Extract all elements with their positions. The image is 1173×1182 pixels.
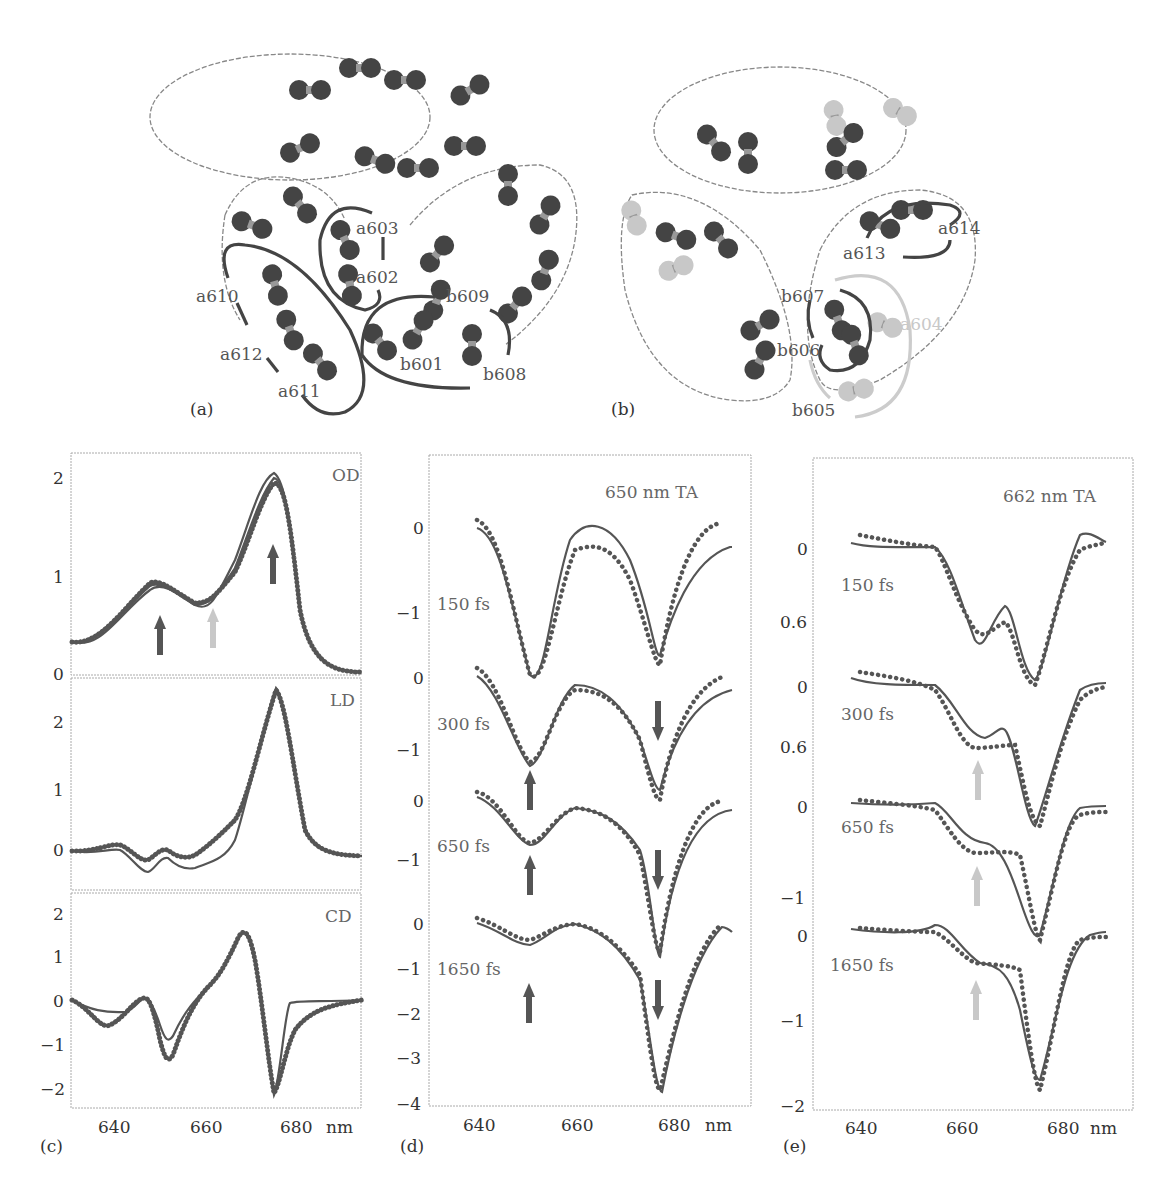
d-xaxis-unit: nm xyxy=(705,1115,732,1135)
d-ytick-1650-m3: −3 xyxy=(396,1048,421,1068)
d-ytick-1650-m2: −2 xyxy=(396,1004,421,1024)
cd-ytick-m1: −1 xyxy=(40,1035,65,1055)
e-title: 662 nm TA xyxy=(1003,486,1097,506)
c-xtick-640: 640 xyxy=(98,1117,130,1137)
d-label-150fs: 150 fs xyxy=(437,594,490,614)
e-ytick-150-06: 0.6 xyxy=(780,612,807,632)
d-650fs-arrow-down xyxy=(652,850,664,890)
od-ytick-0: 0 xyxy=(53,664,64,684)
d-label-1650fs: 1650 fs xyxy=(437,959,501,979)
e-label-300fs: 300 fs xyxy=(841,704,894,724)
d-300fs-arrow-up xyxy=(524,770,536,810)
od-arrow-650 xyxy=(154,615,166,655)
domain-ellipse-left-b xyxy=(621,192,792,400)
cd-ytick-2: 2 xyxy=(53,904,64,924)
d-ytick-1650-m4: −4 xyxy=(396,1094,421,1114)
e-xtick-640: 640 xyxy=(845,1118,877,1138)
label-b601: b601 xyxy=(400,354,443,374)
c-xtick-660: 660 xyxy=(190,1117,222,1137)
d-xtick-660: 660 xyxy=(561,1115,593,1135)
d-label-650fs: 650 fs xyxy=(437,836,490,856)
e-xtick-680: 680 xyxy=(1047,1118,1079,1138)
ld-ytick-2: 2 xyxy=(53,712,64,732)
d-ytick-1650-m1: −1 xyxy=(396,959,421,979)
d-ytick-150-m1: −1 xyxy=(396,603,421,623)
e-650fs-arrow-up xyxy=(971,866,983,906)
ld-frame xyxy=(71,678,361,890)
ld-title: LD xyxy=(330,690,355,710)
panel-label-b: (b) xyxy=(611,399,635,419)
d-title: 650 nm TA xyxy=(605,482,699,502)
panel-b-diagram: a613 a614 b607 a604 b606 b605 (b) xyxy=(611,67,981,420)
e-300fs-arrow-up xyxy=(972,760,984,800)
panel-label-e: (e) xyxy=(783,1136,806,1156)
e-label-150fs: 150 fs xyxy=(841,575,894,595)
d-1650fs-arrow-up xyxy=(523,983,535,1023)
d-150fs-experiment xyxy=(477,520,722,677)
e-1650fs-arrow-up xyxy=(970,980,982,1020)
label-b607: b607 xyxy=(781,286,824,306)
subplot-ld: LD 2 1 0 xyxy=(53,678,362,890)
d-ytick-650-0: 0 xyxy=(413,791,424,811)
label-a610: a610 xyxy=(196,286,239,306)
cd-ytick-0: 0 xyxy=(53,991,64,1011)
chlorophyll-pairs-b xyxy=(618,94,933,403)
panel-label-c: (c) xyxy=(40,1136,63,1156)
label-a602: a602 xyxy=(356,267,399,287)
e-ytick-1650-m2: −2 xyxy=(780,1096,805,1116)
e-ytick-300-0: 0 xyxy=(797,677,808,697)
label-a613: a613 xyxy=(843,243,886,263)
domain-ellipse-top-b xyxy=(654,67,906,193)
label-b605: b605 xyxy=(792,400,835,420)
label-b606: b606 xyxy=(777,340,820,360)
d-xtick-680: 680 xyxy=(658,1115,690,1135)
figure: a603 a602 a610 b609 a612 b601 b608 a611 … xyxy=(0,0,1173,1182)
d-650fs-fit xyxy=(477,797,732,957)
e-ytick-650-m1: −1 xyxy=(780,888,805,908)
od-ytick-2: 2 xyxy=(53,468,64,488)
label-b609: b609 xyxy=(446,286,489,306)
cd-ytick-1: 1 xyxy=(53,947,64,967)
od-arrow-675 xyxy=(267,544,279,584)
e-ytick-150-0: 0 xyxy=(797,539,808,559)
d-ytick-1650-0: 0 xyxy=(413,914,424,934)
d-650fs-arrow-up xyxy=(524,855,536,895)
od-arrow-662 xyxy=(207,608,219,648)
panel-label-a: (a) xyxy=(190,399,213,419)
e-ytick-650-0: 0 xyxy=(797,797,808,817)
e-xtick-660: 660 xyxy=(946,1118,978,1138)
e-150fs-fit xyxy=(851,534,1106,680)
label-a612: a612 xyxy=(220,344,263,364)
d-xtick-640: 640 xyxy=(463,1115,495,1135)
d-ytick-650-m1: −1 xyxy=(396,850,421,870)
d-300fs-arrow-down xyxy=(652,701,664,741)
e-ytick-1650-0: 0 xyxy=(797,926,808,946)
e-label-1650fs: 1650 fs xyxy=(830,955,894,975)
d-ytick-300-m1: −1 xyxy=(396,740,421,760)
subplot-od: OD 2 1 0 xyxy=(53,453,361,684)
cd-title: CD xyxy=(325,906,352,926)
e-label-650fs: 650 fs xyxy=(841,817,894,837)
ld-ytick-0: 0 xyxy=(53,840,64,860)
cd-ytick-m2: −2 xyxy=(40,1079,65,1099)
od-ytick-1: 1 xyxy=(53,567,64,587)
d-650fs-experiment xyxy=(477,792,722,952)
label-a603: a603 xyxy=(356,218,399,238)
panel-a-diagram: a603 a602 a610 b609 a612 b601 b608 a611 … xyxy=(150,54,577,419)
ld-ytick-1: 1 xyxy=(53,780,64,800)
d-frame xyxy=(429,455,751,1106)
label-b608: b608 xyxy=(483,364,526,384)
od-title: OD xyxy=(332,465,360,485)
label-a604: a604 xyxy=(900,314,943,334)
label-a611: a611 xyxy=(278,381,321,401)
d-label-300fs: 300 fs xyxy=(437,714,490,734)
panel-c-spectra: OD 2 1 0 LD 2 1 0 CD 2 1 0 xyxy=(40,453,362,1156)
d-1650fs-experiment xyxy=(477,918,722,1090)
e-150fs-experiment xyxy=(860,535,1106,685)
d-1650fs-arrow-down xyxy=(652,980,664,1020)
subplot-cd: CD 2 1 0 −1 −2 640 660 680 nm xyxy=(40,893,362,1137)
cd-fit xyxy=(72,933,362,1095)
c-xtick-680: 680 xyxy=(280,1117,312,1137)
panel-label-d: (d) xyxy=(400,1136,424,1156)
d-ytick-150-0: 0 xyxy=(413,518,424,538)
